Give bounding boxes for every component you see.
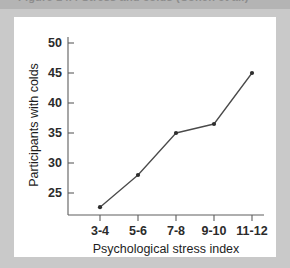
x-axis-title: Psychological stress index <box>93 242 240 256</box>
y-tick-label-50: 50 <box>48 36 62 50</box>
y-axis-title: Participants with colds <box>27 63 41 187</box>
line-chart: 50 45 40 35 30 25 3-4 5-6 7-8 9-10 11-12 <box>14 17 276 257</box>
y-tick-label-25: 25 <box>48 186 62 200</box>
x-tick-label-0: 3-4 <box>91 224 109 238</box>
data-point-0 <box>98 205 102 209</box>
y-axis-tick-labels: 50 45 40 35 30 25 <box>48 36 62 200</box>
chart-card: 50 45 40 35 30 25 3-4 5-6 7-8 9-10 11-12 <box>14 17 276 257</box>
data-point-4 <box>250 71 254 75</box>
y-tick-label-40: 40 <box>48 96 62 110</box>
data-point-2 <box>174 131 178 135</box>
y-tick-label-35: 35 <box>48 126 62 140</box>
x-tick-label-3: 9-10 <box>201 224 226 238</box>
y-tick-label-30: 30 <box>48 156 62 170</box>
x-axis-tick-labels: 3-4 5-6 7-8 9-10 11-12 <box>91 224 268 238</box>
x-tick-label-2: 7-8 <box>167 224 185 238</box>
y-axis-ticks <box>68 43 74 193</box>
x-tick-label-1: 5-6 <box>129 224 147 238</box>
x-axis-ticks <box>100 215 252 221</box>
title-strip: Figure 14.4 Stress and colds (Cohen et a… <box>0 0 290 9</box>
figure-title-clipped: Figure 14.4 Stress and colds (Cohen et a… <box>18 0 249 3</box>
data-point-1 <box>136 173 140 177</box>
data-point-3 <box>212 122 216 126</box>
data-series-line <box>100 73 252 207</box>
y-tick-label-45: 45 <box>48 66 62 80</box>
x-tick-label-4: 11-12 <box>236 224 267 238</box>
